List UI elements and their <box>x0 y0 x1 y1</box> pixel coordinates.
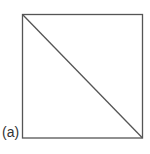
square-diagram <box>0 0 150 154</box>
figure-label: (a) <box>2 124 19 140</box>
diagonal-line <box>23 15 143 139</box>
